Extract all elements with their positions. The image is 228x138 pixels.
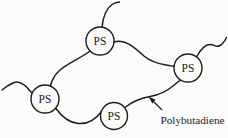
polybutadiene-label: Polybutadiene [161, 114, 225, 126]
polymer-chain-top-to-right [114, 41, 175, 66]
polymer-chain-top-to-left [51, 52, 90, 86]
ps-node-right: PS [174, 54, 202, 82]
ps-node-left: PS [31, 85, 59, 113]
polymer-chain-right-dangling [197, 38, 227, 58]
ps-node-label: PS [39, 93, 52, 105]
polymer-chain-bottom-to-right [126, 80, 181, 107]
polymer-network-diagram: PS PS PS PS Polybutadiene [0, 0, 228, 138]
diagram-svg: PS PS PS PS Polybutadiene [0, 0, 228, 138]
ps-node-top: PS [86, 27, 114, 55]
ps-node-label: PS [108, 110, 121, 122]
polymer-chain-left-to-bottom [56, 109, 102, 124]
ps-node-bottom: PS [101, 103, 128, 130]
ps-node-label: PS [182, 62, 195, 74]
polymer-chain-left-dangling [2, 82, 32, 92]
polymer-chain-top-dangling [102, 2, 120, 28]
ps-node-label: PS [94, 35, 107, 47]
polybutadiene-arrow [149, 97, 163, 111]
